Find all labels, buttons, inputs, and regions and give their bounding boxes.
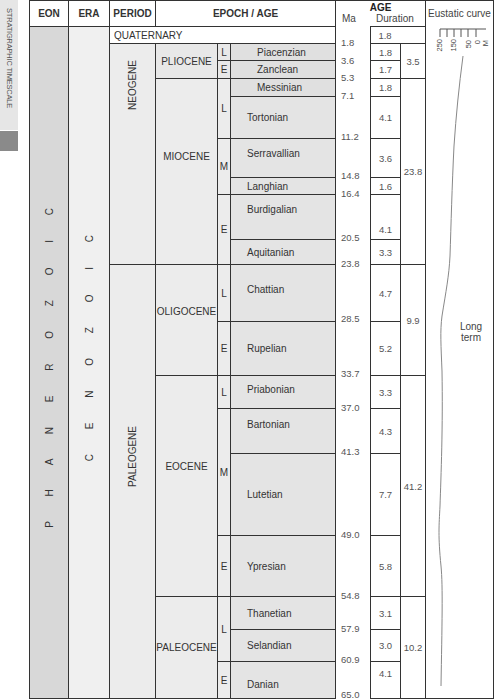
ma-value: 54.8 — [341, 590, 360, 601]
ma-value: 7.1 — [341, 90, 354, 101]
sub-eocene-l: L — [217, 375, 231, 409]
curve-label-line2: term — [456, 332, 486, 343]
duration-tortonian: 4.1 — [370, 96, 401, 139]
duration-chattian: 4.7 — [370, 264, 401, 322]
ma-value: 5.3 — [341, 72, 354, 83]
sub-eocene-m: M — [217, 408, 231, 536]
duration-pliocene: 3.5 — [400, 43, 426, 79]
header-eustatic: Eustatic curve — [425, 0, 494, 27]
duration-lutetian: 7.7 — [370, 453, 401, 536]
duration-rupelian: 5.2 — [370, 321, 401, 376]
eon-label: P H A N E R O Z O I C — [44, 197, 55, 528]
age-chattian: Chattian — [230, 264, 336, 322]
sub-oligocene-l: L — [217, 264, 231, 322]
side-tab-marker — [0, 131, 18, 151]
duration-ypresian: 5.8 — [370, 535, 401, 597]
ma-value: 60.9 — [341, 654, 360, 665]
ma-value: 57.9 — [341, 623, 360, 634]
epoch-oligocene: OLIGOCENE — [155, 264, 218, 376]
epoch-eocene: EOCENE — [155, 375, 218, 597]
ma-value: 49.0 — [341, 529, 360, 540]
side-title-text: STRATIGRAPHIC TIMESCALE — [5, 8, 14, 108]
age-danian: Danian — [230, 661, 336, 699]
duration-langhian: 1.6 — [370, 177, 401, 195]
eustatic-panel: 250 150 50 0 M Long term — [425, 26, 494, 699]
period-neogene-label: NEOGENE — [127, 60, 138, 110]
header-age: AGE Ma Duration — [335, 0, 426, 27]
duration-serravallian: 3.6 — [370, 138, 401, 178]
ma-value: 3.6 — [341, 55, 354, 66]
ma-value: 20.5 — [341, 232, 360, 243]
duration-quaternary: 1.8 — [370, 26, 426, 44]
era-cenozoic: C E N O Z O I C — [68, 26, 110, 699]
age-priabonian: Priabonian — [230, 375, 336, 409]
age-ypresian: Ypresian — [230, 535, 336, 597]
age-rupelian: Rupelian — [230, 321, 336, 376]
sub-miocene-e: E — [217, 194, 231, 265]
ma-value: 23.8 — [341, 258, 360, 269]
period-neogene: NEOGENE — [109, 43, 156, 265]
duration-bartonian: 4.3 — [370, 408, 401, 454]
header-ma: Ma — [342, 13, 356, 24]
age-messinian: Messinian — [230, 78, 336, 97]
duration-oligocene: 9.9 — [400, 264, 426, 376]
sub-miocene-m: M — [217, 138, 231, 195]
age-selandian: Selandian — [230, 629, 336, 662]
sub-pliocene-e: E — [217, 60, 231, 79]
eustatic-curve — [426, 26, 494, 699]
side-title-tab: STRATIGRAPHIC TIMESCALE — [0, 0, 18, 130]
age-burdigalian: Burdigalian — [230, 194, 336, 240]
ma-value: 11.2 — [341, 131, 359, 142]
ma-value: 16.4 — [341, 188, 360, 199]
age-aquitanian: Aquitanian — [230, 239, 336, 265]
ma-value: 14.8 — [341, 170, 360, 181]
sub-miocene-l: L — [217, 78, 231, 139]
sub-paleocene-l: L — [217, 596, 231, 662]
era-label: C E N O Z O I C — [84, 224, 95, 461]
age-serravallian: Serravallian — [230, 138, 336, 178]
header-period: PERIOD — [109, 0, 156, 27]
age-thanetian: Thanetian — [230, 596, 336, 630]
ma-value: 37.0 — [341, 402, 360, 413]
duration-paleocene: 10.2 — [400, 596, 426, 699]
header-age-label: AGE — [336, 2, 425, 13]
duration-selandian: 3.0 — [370, 629, 401, 662]
duration-piacenzian: 1.8 — [370, 43, 401, 61]
epoch-paleocene: PALEOCENE — [155, 596, 218, 699]
age-tortonian: Tortonian — [230, 96, 336, 139]
duration-zanclean: 1.7 — [370, 60, 401, 79]
period-paleogene-label: PALEOGENE — [127, 426, 138, 487]
header-epoch-age: EPOCH / AGE — [155, 0, 336, 27]
header-duration: Duration — [376, 13, 414, 24]
ma-value: 33.7 — [341, 368, 360, 379]
curve-label-line1: Long — [456, 321, 486, 332]
age-zanclean: Zanclean — [230, 60, 336, 79]
duration-eocene: 41.2 — [400, 375, 426, 597]
age-langhian: Langhian — [230, 177, 336, 195]
duration-priabonian: 3.3 — [370, 375, 401, 409]
period-quaternary: QUATERNARY — [109, 26, 336, 44]
header-eon: EON — [29, 0, 69, 27]
sub-paleocene-e: E — [217, 661, 231, 699]
sub-eocene-e: E — [217, 535, 231, 597]
age-bartonian: Bartonian — [230, 408, 336, 454]
eon-phanerozoic: P H A N E R O Z O I C — [29, 26, 69, 699]
ma-value: 65.0 — [341, 689, 360, 699]
duration-aquitanian: 3.3 — [370, 239, 401, 265]
duration-thanetian: 3.1 — [370, 596, 401, 630]
ma-value: 28.5 — [341, 313, 360, 324]
period-paleogene: PALEOGENE — [109, 264, 156, 699]
age-lutetian: Lutetian — [230, 453, 336, 536]
sub-oligocene-e: E — [217, 321, 231, 376]
age-piacenzian: Piacenzian — [230, 43, 336, 61]
ma-value: 41.3 — [341, 446, 360, 457]
duration-miocene: 23.8 — [400, 78, 426, 265]
header-era: ERA — [68, 0, 110, 27]
epoch-pliocene: PLIOCENE — [155, 43, 218, 79]
epoch-miocene: MIOCENE — [155, 78, 218, 265]
duration-messinian: 1.8 — [370, 78, 401, 97]
duration-burdigalian: 4.1 — [370, 194, 401, 240]
sub-pliocene-l: L — [217, 43, 231, 61]
eustatic-curve-label: Long term — [456, 321, 486, 343]
ma-value: 1.8 — [341, 37, 354, 48]
